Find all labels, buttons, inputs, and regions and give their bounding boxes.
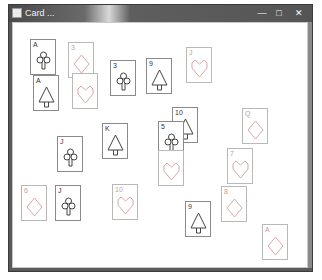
window-title: Card ... <box>25 8 55 19</box>
app-icon <box>12 8 22 18</box>
card-rank: 3 <box>113 62 117 70</box>
playing-card[interactable]: A <box>33 75 59 111</box>
heart-icon <box>116 195 135 217</box>
maximize-button[interactable]: □ <box>271 7 287 19</box>
spade-icon <box>150 69 169 91</box>
spade-icon <box>106 134 125 156</box>
playing-card[interactable]: 7 <box>227 148 253 184</box>
diamond-icon <box>246 119 265 141</box>
playing-card[interactable]: 9 <box>146 58 172 94</box>
playing-card[interactable]: K <box>102 123 128 159</box>
card-rank: 6 <box>24 187 28 195</box>
playing-card[interactable]: A <box>30 39 56 75</box>
playing-card[interactable]: 8 <box>221 186 247 222</box>
heart-icon <box>231 159 250 181</box>
card-rank: J <box>58 187 62 195</box>
playing-card[interactable]: Q <box>242 108 268 144</box>
playing-card[interactable] <box>72 73 98 109</box>
diamond-icon <box>266 235 285 257</box>
playing-card[interactable]: 9 <box>185 201 211 237</box>
heart-icon <box>76 84 95 106</box>
club-icon <box>34 50 53 72</box>
card-rank: 9 <box>188 203 192 211</box>
playing-card[interactable]: J <box>186 47 212 83</box>
heart-icon <box>162 161 181 183</box>
playing-card[interactable]: A <box>262 224 288 260</box>
diamond-icon <box>225 197 244 219</box>
card-rank: 3 <box>71 44 75 52</box>
title-bar[interactable]: Card ... — □ ✕ <box>9 5 312 22</box>
card-rank: 10 <box>115 186 123 194</box>
heart-icon <box>190 58 209 80</box>
spade-icon <box>189 212 208 234</box>
diamond-icon <box>25 196 44 218</box>
card-rank: 10 <box>175 109 183 117</box>
card-rank: K <box>105 125 110 133</box>
window-edge <box>308 22 312 268</box>
club-icon <box>114 71 133 93</box>
card-rank: 8 <box>224 188 228 196</box>
club-icon <box>59 196 78 218</box>
card-rank: A <box>36 77 41 85</box>
card-rank: A <box>265 226 270 234</box>
spade-icon <box>37 86 56 108</box>
card-rank: 7 <box>230 150 234 158</box>
playing-card[interactable]: 6 <box>21 185 47 221</box>
card-rank: 5 <box>161 123 165 131</box>
playing-card[interactable]: 10 <box>112 184 138 220</box>
card-rank: A <box>33 41 38 49</box>
club-icon <box>61 147 80 169</box>
card-rank: J <box>189 49 193 57</box>
card-rank: 9 <box>149 60 153 68</box>
playing-card[interactable]: 3 <box>110 60 136 96</box>
card-rank: J <box>60 138 64 146</box>
playing-card[interactable]: J <box>57 136 83 172</box>
playing-card[interactable]: J <box>55 185 81 221</box>
diamond-icon <box>72 53 91 75</box>
card-rank: Q <box>245 110 250 118</box>
playing-card[interactable] <box>158 150 184 186</box>
minimize-button[interactable]: — <box>254 7 270 19</box>
close-button[interactable]: ✕ <box>290 7 308 19</box>
